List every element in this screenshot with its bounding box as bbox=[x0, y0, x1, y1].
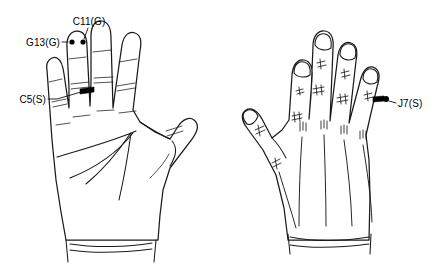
hand-diagram-figure: G13(G) C11(G) C5(S) bbox=[0, 0, 441, 271]
point-marker-g13[interactable] bbox=[69, 39, 74, 44]
point-marker-c11[interactable] bbox=[80, 39, 85, 44]
point-marker-j7-tail[interactable] bbox=[373, 96, 384, 102]
point-label-c5: C5(S) bbox=[19, 94, 46, 105]
point-label-c11: C11(G) bbox=[73, 16, 106, 27]
point-label-g13: G13(G) bbox=[26, 37, 60, 48]
hand-diagram-canvas: G13(G) C11(G) C5(S) bbox=[0, 0, 441, 271]
point-label-j7: J7(S) bbox=[398, 98, 422, 109]
